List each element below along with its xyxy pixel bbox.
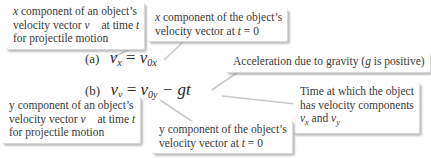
text: at time: [95, 113, 132, 125]
text: = 0: [241, 25, 259, 37]
callout-line: Time at which the object: [300, 85, 414, 99]
callout-vy-definition: y component of an object’s velocity vect…: [2, 97, 141, 144]
text: is positive): [371, 55, 425, 67]
equation-a: (a) vx = v0x: [85, 48, 157, 68]
leader-g: [212, 72, 238, 90]
equation-tag: (b): [85, 83, 100, 98]
equals-sign: =: [126, 48, 136, 67]
text: velocity vector at: [155, 25, 238, 37]
vector-v: v⃗: [85, 19, 99, 31]
callout-line: for projectile motion: [13, 32, 139, 46]
leader-t: [222, 96, 296, 104]
rhs-sub: 0y: [148, 89, 157, 100]
text: velocity vector at: [159, 137, 242, 149]
callout-time-definition: Time at which the object has velocity co…: [293, 83, 420, 134]
text: velocity vector: [13, 19, 85, 31]
var-t: t: [132, 113, 135, 125]
lhs-sub: x: [117, 57, 121, 68]
callout-line: vx and vy: [300, 112, 414, 130]
callout-line: y component of the object’s: [159, 123, 287, 137]
rhs-var: v: [141, 80, 149, 99]
var-t: t: [136, 19, 139, 31]
callout-line: y component of an object’s: [9, 99, 135, 113]
rhs-gravity-term: − gt: [162, 80, 191, 99]
vector-v: v⃗: [81, 113, 95, 125]
callout-line: Acceleration due to gravity (g is positi…: [233, 55, 425, 69]
text: component of the object’s: [160, 11, 282, 23]
callout-line: for projectile motion: [9, 126, 135, 140]
callout-line: has velocity components: [300, 99, 414, 113]
text: and: [309, 112, 331, 124]
text: at time: [99, 19, 136, 31]
rhs-sub: 0x: [147, 57, 156, 68]
callout-v0x-definition: x component of the object’s velocity vec…: [148, 9, 288, 42]
callout-gravity-definition: Acceleration due to gravity (g is positi…: [226, 53, 431, 73]
callout-line: velocity vector at t = 0: [155, 25, 282, 39]
callout-line: velocity vector v⃗ at time t: [9, 113, 135, 127]
callout-line: x component of the object’s: [155, 11, 282, 25]
sub-y: y: [336, 118, 340, 127]
callout-vx-definition: x component of an object’s velocity vect…: [6, 3, 145, 50]
text: component of an object’s: [18, 5, 137, 17]
text: velocity vector: [9, 113, 81, 125]
callout-line: x component of an object’s: [13, 5, 139, 19]
callout-line: velocity vector v⃗ at time t: [13, 19, 139, 33]
text: Acceleration due to gravity (: [233, 55, 365, 67]
equation-tag: (a): [85, 51, 99, 66]
leader-v0x: [164, 40, 185, 60]
callout-v0y-definition: y component of the object’s velocity vec…: [152, 121, 293, 154]
text: = 0: [245, 137, 263, 149]
callout-line: velocity vector at t = 0: [159, 137, 287, 151]
